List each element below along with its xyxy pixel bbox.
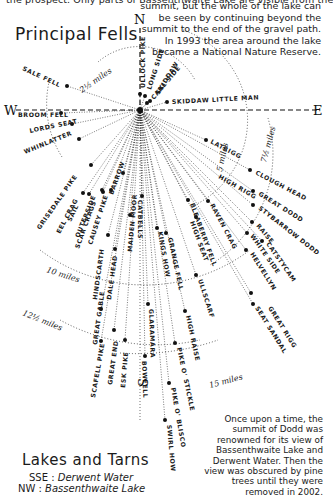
lake-direction: NW : bbox=[18, 483, 42, 494]
compass-north: N bbox=[134, 12, 145, 27]
fell-label-scafell-pike: SCAFELL PIKE bbox=[89, 342, 106, 398]
fell-label-bowfell: BOWFELL bbox=[141, 361, 149, 399]
fell-label-catbells: CATBELLS bbox=[137, 200, 144, 239]
lakes-title: Lakes and Tarns bbox=[22, 451, 149, 469]
ring-12-5 bbox=[60, 320, 200, 345]
lake-direction: SSE : bbox=[29, 472, 55, 483]
lake-row-derwent: SSE : Derwent Water bbox=[29, 472, 133, 483]
ring-5 bbox=[183, 30, 248, 205]
fell-label-esk-pike: ESK PIKE bbox=[119, 351, 129, 388]
fell-label-great-end: GREAT END bbox=[106, 340, 119, 385]
lake-row-bassenthwaite: NW : Bassenthwaite Lake bbox=[18, 483, 145, 494]
fell-label-sale-fell: SALE FELL bbox=[22, 65, 62, 89]
dodd-summit-dot bbox=[137, 107, 143, 113]
fell-label-glaramara: GLARAMARA bbox=[148, 309, 157, 358]
fell-label-raven-crag: RAVEN CRAG bbox=[209, 202, 239, 250]
lake-name: Bassenthwaite Lake bbox=[45, 483, 145, 494]
compass-east: E bbox=[313, 103, 323, 118]
lake-name: Derwent Water bbox=[58, 472, 133, 483]
distance-label-12-5: 12½ miles bbox=[21, 309, 63, 333]
fell-label-barrow: BARROW bbox=[107, 160, 125, 195]
fell-label-ullock-pike: ULLOCK PIKE bbox=[139, 36, 146, 88]
ring-15 bbox=[120, 340, 218, 354]
distance-label-7-5: 7½ miles bbox=[259, 126, 277, 164]
distance-label-15: 15 miles bbox=[208, 372, 243, 390]
fell-label-skiddaw-little-man: SKIDDAW LITTLE MAN bbox=[172, 93, 260, 105]
compass-west: W bbox=[4, 103, 18, 118]
fell-label-high-rigg: HIGH RIGG bbox=[218, 173, 258, 200]
ring-2-5 bbox=[98, 47, 195, 80]
fell-label-maiden-moor: MAIDEN MOOR bbox=[126, 194, 138, 252]
fell-label-swirl-how: SWIRL HOW bbox=[166, 424, 177, 472]
dodd-history-note: Once upon a time, the summit of Dodd was… bbox=[195, 414, 323, 497]
fell-label-broom-fell: BROOM FELL bbox=[18, 111, 69, 118]
distance-label-10: 10 miles bbox=[45, 265, 80, 284]
distance-label-2-5: 2½ miles bbox=[77, 66, 113, 95]
fell-label-ullscarf: ULLSCARF bbox=[197, 278, 216, 319]
fell-label-high-raise: HIGH RAISE bbox=[185, 315, 202, 362]
distance-rings bbox=[40, 30, 273, 354]
fell-labels: ULLOCK PIKE LONG SIDE SKIDDAW CARL SIDE … bbox=[18, 36, 321, 472]
